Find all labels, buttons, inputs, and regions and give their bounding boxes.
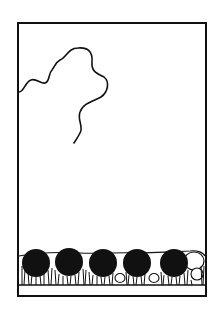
black-sphere bbox=[160, 249, 188, 277]
black-sphere bbox=[22, 249, 50, 277]
wavy-line bbox=[19, 48, 108, 143]
black-sphere bbox=[89, 249, 117, 277]
pebble bbox=[149, 274, 159, 283]
illustration bbox=[0, 0, 224, 310]
black-sphere bbox=[55, 248, 83, 276]
pebble bbox=[115, 274, 125, 283]
black-sphere bbox=[123, 249, 151, 277]
